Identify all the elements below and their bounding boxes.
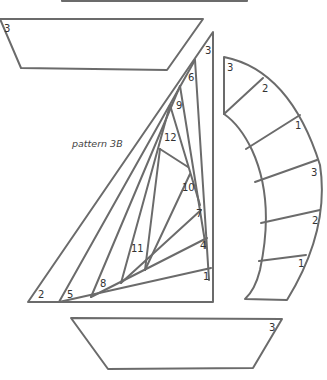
- main-sail-label-9: 9: [176, 100, 182, 111]
- main-sail-label-7: 7: [196, 208, 202, 219]
- bottom-hull: [71, 318, 282, 369]
- main-sail-label-5: 5: [67, 289, 73, 300]
- jib-sail-outline: [224, 57, 322, 300]
- bottom-hull-label: 3: [269, 322, 275, 333]
- top-hull-label: 3: [4, 23, 10, 34]
- main-sail-label-1: 1: [203, 271, 209, 282]
- jib-label-2-top: 2: [262, 83, 268, 94]
- main-sail-label-6: 6: [188, 72, 194, 83]
- jib-label-1-top: 1: [295, 120, 301, 131]
- main-sail-label-2: 2: [38, 289, 44, 300]
- jib-label-1-bottom: 1: [298, 258, 304, 269]
- iris-folding-sailboat-pattern: 3 3 6 9 12 10 7 4 1 11 8 5 2 pattern 3B …: [0, 0, 327, 380]
- top-cropped-shape: [62, 0, 247, 1]
- main-sail-label-10: 10: [182, 182, 195, 193]
- main-sail-label-8: 8: [100, 278, 106, 289]
- jib-label-2-bottom: 2: [312, 215, 318, 226]
- main-sail-label-12: 12: [164, 132, 177, 143]
- main-sail-label-3: 3: [205, 45, 211, 56]
- jib-label-3-top: 3: [227, 62, 233, 73]
- jib-label-3-bottom: 3: [311, 167, 317, 178]
- pattern-caption: pattern 3B: [71, 138, 123, 149]
- main-sail-outline: [28, 32, 213, 302]
- main-sail-strips: [59, 60, 211, 302]
- main-sail-label-4: 4: [200, 240, 206, 251]
- jib-sail-strips: [224, 78, 320, 261]
- top-hull-piece: [0, 19, 203, 70]
- main-sail-label-11: 11: [131, 243, 144, 254]
